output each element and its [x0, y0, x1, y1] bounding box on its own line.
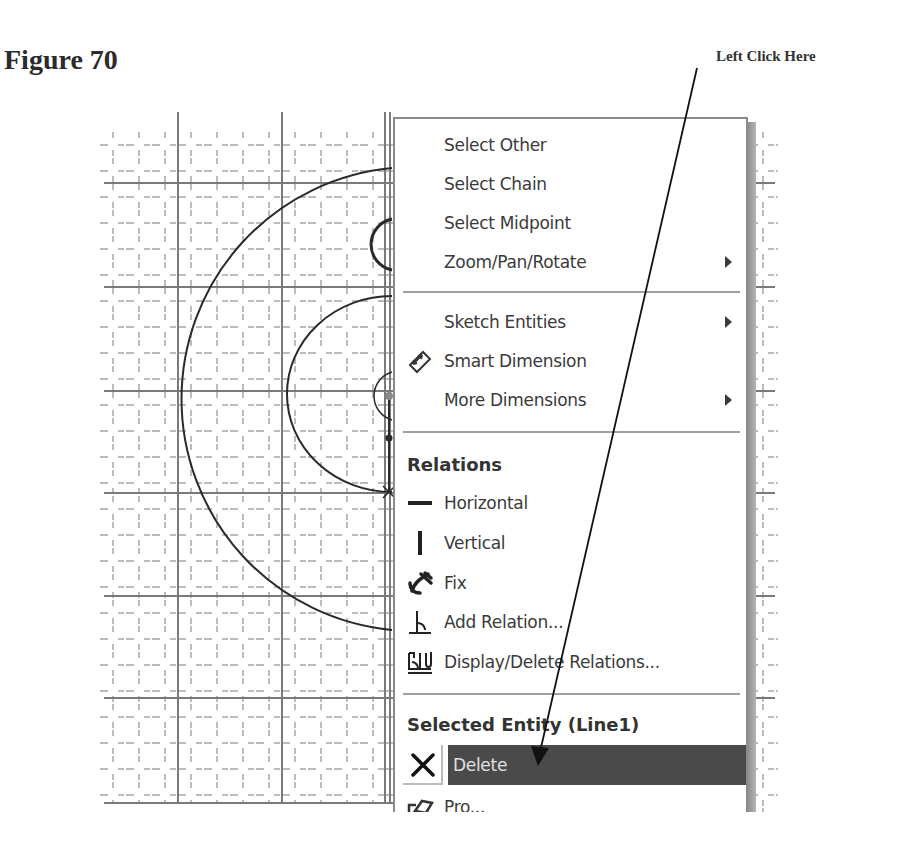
- horizontal-relation-icon: [405, 488, 435, 518]
- delete-x-icon: [408, 750, 438, 780]
- menu-item-zoom-pan-rotate[interactable]: Zoom/Pan/Rotate: [395, 244, 746, 280]
- crop-mask: [390, 812, 790, 854]
- menu-item-more-dimensions[interactable]: More Dimensions: [395, 382, 746, 418]
- menu-separator: [403, 431, 740, 433]
- relations-header: Relations: [407, 454, 502, 475]
- selected-entity-header: Selected Entity (Line1): [407, 714, 639, 735]
- submenu-arrow-icon: [725, 316, 732, 328]
- vertical-relation-icon: [405, 528, 435, 558]
- context-menu: Select Other Select Chain Select Midpoin…: [393, 117, 748, 837]
- menu-item-add-relation[interactable]: Add Relation...: [395, 604, 746, 640]
- menu-item-delete[interactable]: Delete: [395, 745, 746, 785]
- menu-separator: [403, 693, 740, 695]
- menu-item-sketch-entities[interactable]: Sketch Entities: [395, 304, 746, 340]
- menu-item-horizontal[interactable]: Horizontal: [395, 485, 746, 521]
- menu-separator: [403, 291, 740, 293]
- submenu-arrow-icon: [725, 256, 732, 268]
- menu-item-select-other[interactable]: Select Other: [395, 127, 746, 163]
- line-midpoint: [386, 435, 393, 442]
- menu-item-select-midpoint[interactable]: Select Midpoint: [395, 205, 746, 241]
- menu-item-fix[interactable]: Fix: [395, 565, 746, 601]
- line-endpoint: [385, 392, 393, 400]
- menu-item-select-chain[interactable]: Select Chain: [395, 166, 746, 202]
- display-delete-relations-icon: [405, 647, 435, 677]
- add-relation-icon: [405, 607, 435, 637]
- submenu-arrow-icon: [725, 394, 732, 406]
- fix-anchor-icon: [405, 568, 435, 598]
- menu-shadow: [748, 122, 756, 812]
- smart-dimension-icon: [405, 346, 435, 376]
- menu-item-vertical[interactable]: Vertical: [395, 525, 746, 561]
- menu-item-display-delete-relations[interactable]: Display/Delete Relations...: [395, 644, 746, 680]
- menu-item-smart-dimension[interactable]: Smart Dimension: [395, 343, 746, 379]
